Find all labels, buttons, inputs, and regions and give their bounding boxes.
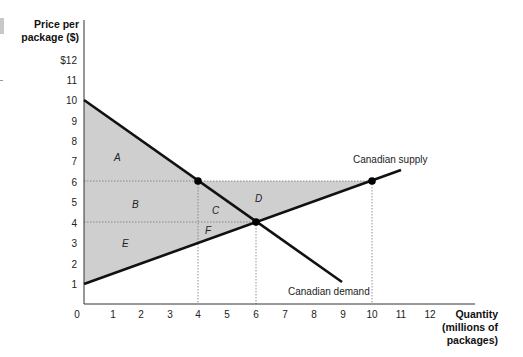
region-label-b: B <box>132 199 139 210</box>
svg-text:8: 8 <box>311 309 317 320</box>
svg-text:1: 1 <box>71 279 77 290</box>
svg-text:11: 11 <box>396 309 407 320</box>
y-axis-title-line2: package ($) <box>21 31 79 43</box>
svg-text:9: 9 <box>340 309 346 320</box>
region-label-f: F <box>205 225 212 236</box>
x-axis-title-line3: packages) <box>447 334 498 346</box>
svg-text:6: 6 <box>253 309 259 320</box>
svg-text:5: 5 <box>224 309 230 320</box>
point-demand-world-price <box>194 177 202 185</box>
x-axis-title-line1: Quantity <box>455 308 498 320</box>
svg-text:4: 4 <box>71 218 77 229</box>
svg-text:12: 12 <box>424 309 436 320</box>
supply-demand-chart: Price per package ($) 1 2 3 4 5 6 7 8 9 … <box>0 0 523 357</box>
supply-label: Canadian supply <box>353 154 428 165</box>
svg-text:7: 7 <box>282 309 288 320</box>
svg-text:8: 8 <box>71 136 77 147</box>
svg-text:1: 1 <box>110 309 116 320</box>
svg-text:11: 11 <box>67 75 78 86</box>
point-equilibrium <box>252 218 260 226</box>
svg-text:5: 5 <box>71 197 77 208</box>
x-tick-labels: 0 1 2 3 4 5 6 7 8 9 10 11 12 <box>74 309 436 320</box>
demand-label: Canadian demand <box>288 286 370 297</box>
svg-text:$12: $12 <box>60 55 77 66</box>
region-label-e: E <box>122 238 129 249</box>
svg-text:3: 3 <box>167 309 173 320</box>
svg-text:2: 2 <box>138 309 144 320</box>
x-axis-title-line2: (millions of <box>442 321 499 333</box>
svg-text:0: 0 <box>74 309 80 320</box>
svg-text:6: 6 <box>71 177 77 188</box>
svg-text:10: 10 <box>366 309 378 320</box>
y-axis-title-line1: Price per <box>34 18 79 30</box>
svg-text:9: 9 <box>71 116 77 127</box>
region-label-a: A <box>113 152 121 163</box>
svg-text:4: 4 <box>195 309 201 320</box>
svg-text:2: 2 <box>71 259 77 270</box>
y-tick-labels: 1 2 3 4 5 6 7 8 9 10 11 $12 <box>60 55 77 290</box>
region-label-d: D <box>255 193 262 204</box>
svg-text:7: 7 <box>71 156 77 167</box>
svg-text:3: 3 <box>71 238 77 249</box>
svg-text:10: 10 <box>66 95 78 106</box>
point-supply-world-price <box>368 177 376 185</box>
region-label-c: C <box>212 205 220 216</box>
